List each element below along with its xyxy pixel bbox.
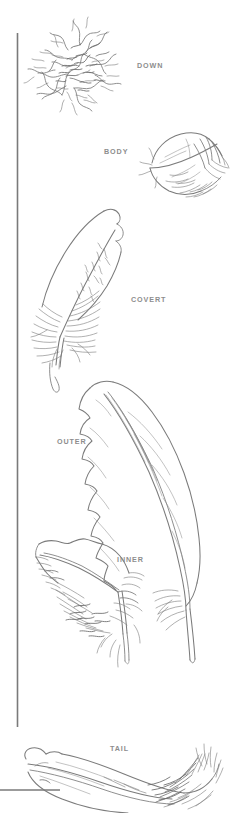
diagram-canvas xyxy=(0,0,250,813)
label-tail: TAIL xyxy=(110,745,129,752)
label-outer: OUTER xyxy=(57,438,87,445)
specimen-covert xyxy=(31,209,123,369)
label-inner: INNER xyxy=(117,556,144,563)
feather-diagram: DOWN BODY COVERT OUTER INNER TAIL xyxy=(0,0,250,813)
frame-rules xyxy=(0,33,60,790)
specimen-down xyxy=(24,17,121,115)
label-covert: COVERT xyxy=(131,296,166,303)
label-down: DOWN xyxy=(137,62,163,69)
label-body: BODY xyxy=(104,148,128,155)
specimen-tail xyxy=(25,744,223,813)
specimen-body xyxy=(139,133,229,197)
